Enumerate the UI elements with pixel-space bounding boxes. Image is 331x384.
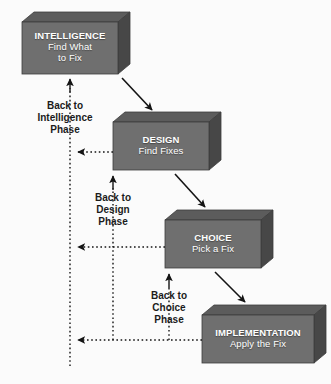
box-choice-top (165, 210, 273, 220)
feedback-label-back-to-choice-line2: Choice (136, 302, 202, 314)
feedback-label-back-to-design-line3: Phase (80, 216, 146, 228)
box-design-front (113, 122, 209, 170)
box-implementation-top (202, 305, 326, 315)
box-implementation-front (202, 315, 314, 363)
box-intelligence (22, 12, 130, 74)
box-intelligence-front (22, 22, 118, 74)
box-design (113, 112, 221, 170)
diagram-canvas: INTELLIGENCE Find What to Fix DESIGN Fin… (0, 0, 331, 384)
box-design-top (113, 112, 221, 122)
box-implementation-side (314, 305, 326, 363)
arrow-design-to-choice (175, 174, 205, 207)
feedback-label-back-to-choice: Back to Choice Phase (136, 290, 202, 327)
box-intelligence-side (118, 12, 130, 74)
feedback-label-back-to-design: Back to Design Phase (80, 192, 146, 229)
feedback-label-back-to-intelligence-line3: Phase (22, 124, 108, 136)
box-choice (165, 210, 273, 268)
feedback-label-back-to-design-line1: Back to (80, 192, 146, 204)
arrow-intelligence-to-design (122, 78, 152, 110)
box-choice-front (165, 220, 261, 268)
arrow-choice-to-implementation (215, 272, 245, 302)
box-intelligence-top (22, 12, 130, 22)
feedback-label-back-to-choice-line3: Phase (136, 314, 202, 326)
feedback-label-back-to-design-line2: Design (80, 204, 146, 216)
feedback-label-back-to-intelligence-line2: Intelligence (22, 112, 108, 124)
feedback-label-back-to-intelligence: Back to Intelligence Phase (22, 100, 108, 137)
box-design-side (209, 112, 221, 170)
feedback-label-back-to-choice-line1: Back to (136, 290, 202, 302)
box-choice-side (261, 210, 273, 268)
feedback-label-back-to-intelligence-line1: Back to (22, 100, 108, 112)
box-implementation (202, 305, 326, 363)
